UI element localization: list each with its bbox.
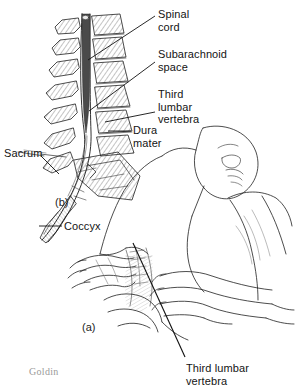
label-coccyx: Coccyx — [64, 220, 101, 233]
label-subarachnoid-space: Subarachnoid space — [158, 48, 227, 73]
artist-signature: Goldin — [29, 366, 59, 377]
label-third-lumbar-vertebra-b: Third lumbar vertebra — [158, 88, 199, 126]
label-sacrum: Sacrum — [4, 147, 43, 160]
panel-label-a: (a) — [82, 321, 95, 333]
label-dura-mater: Dura mater — [133, 124, 162, 149]
lumbar-puncture-figure: Spinal cord Subarachnoid space Third lum… — [0, 0, 295, 391]
label-spinal-cord: Spinal cord — [158, 8, 189, 33]
label-third-lumbar-vertebra-a: Third lumbar vertebra — [186, 362, 249, 387]
anatomical-illustration — [0, 0, 295, 391]
third-lumbar-vertebra-body — [96, 110, 132, 133]
panel-label-b: (b) — [55, 196, 68, 208]
